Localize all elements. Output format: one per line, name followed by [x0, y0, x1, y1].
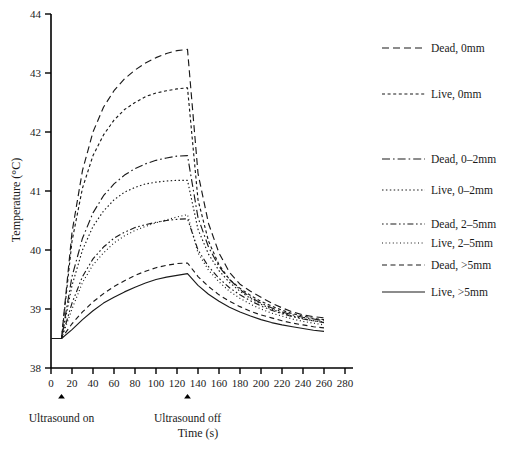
x-axis-ticks: [51, 368, 345, 374]
data-series-group: [51, 49, 324, 338]
legend-label-1: Live, 0mm: [431, 88, 482, 101]
chart-canvas: 38394041424344 0204060801001201401601802…: [0, 0, 511, 451]
x-tick-label-80: 80: [130, 377, 142, 389]
x-tick-label-260: 260: [316, 377, 333, 389]
chart-legend: Dead, 0mmLive, 0mmDead, 0–2mmLive, 0–2mm…: [382, 42, 496, 299]
x-tick-label-40: 40: [88, 377, 100, 389]
x-axis-group: 020406080100120140160180200220240260280: [48, 368, 354, 389]
y-tick-label-40: 40: [30, 244, 42, 256]
legend-label-7: Live, >5mm: [431, 286, 488, 299]
y-axis-title: Temperature (°C): [9, 158, 23, 242]
series-line-dead-2-5mm: [51, 219, 324, 339]
y-tick-label-43: 43: [30, 67, 42, 79]
legend-label-5: Live, 2–5mm: [431, 237, 493, 250]
x-tick-label-240: 240: [295, 377, 312, 389]
legend-label-0: Dead, 0mm: [431, 42, 485, 55]
series-line-live-0-2mm: [51, 180, 324, 338]
x-tick-label-140: 140: [190, 377, 207, 389]
y-tick-label-39: 39: [30, 303, 42, 315]
x-tick-label-180: 180: [232, 377, 249, 389]
x-tick-label-200: 200: [253, 377, 270, 389]
annotation-label-ultrasound-on: Ultrasound on: [29, 412, 95, 424]
y-axis-tick-labels: 38394041424344: [30, 8, 42, 374]
legend-label-2: Dead, 0–2mm: [431, 153, 496, 166]
x-tick-label-220: 220: [274, 377, 291, 389]
x-tick-label-100: 100: [148, 377, 165, 389]
x-tick-label-280: 280: [337, 377, 354, 389]
series-line-live-5mm: [51, 274, 324, 339]
x-axis-title: Time (s): [178, 426, 219, 440]
y-tick-label-38: 38: [30, 362, 42, 374]
x-tick-label-20: 20: [67, 377, 79, 389]
annotation-label-ultrasound-off: Ultrasound off: [154, 412, 221, 424]
y-axis-ticks: [45, 14, 51, 368]
x-tick-label-120: 120: [169, 377, 186, 389]
x-tick-label-60: 60: [109, 377, 121, 389]
legend-label-3: Live, 0–2mm: [431, 184, 493, 197]
legend-label-4: Dead, 2–5mm: [431, 218, 496, 231]
x-tick-label-160: 160: [211, 377, 228, 389]
y-axis-group: 38394041424344: [30, 8, 51, 374]
series-line-live-0mm: [51, 88, 324, 339]
up-arrow-icon-ultrasound-on: [58, 394, 65, 408]
series-line-live-2-5mm: [51, 215, 324, 339]
y-tick-label-44: 44: [30, 8, 42, 20]
up-arrow-icon-ultrasound-off: [184, 394, 191, 408]
annotations-group: Ultrasound onUltrasound off: [29, 394, 221, 424]
x-axis-tick-labels: 020406080100120140160180200220240260280: [48, 377, 354, 389]
y-tick-label-41: 41: [30, 185, 41, 197]
temperature-time-chart-figure: 38394041424344 0204060801001201401601802…: [0, 0, 511, 451]
legend-label-6: Dead, >5mm: [431, 259, 491, 272]
y-tick-label-42: 42: [30, 126, 41, 138]
x-tick-label-0: 0: [48, 377, 54, 389]
